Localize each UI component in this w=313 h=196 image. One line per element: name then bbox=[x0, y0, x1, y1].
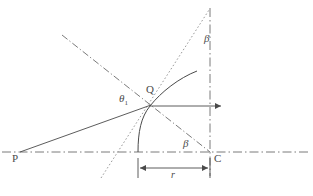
incident-ray-pq bbox=[20, 105, 151, 152]
surface-normal-line bbox=[62, 35, 210, 152]
theta-subscript: 1 bbox=[124, 99, 128, 107]
label-point-p: P bbox=[12, 153, 18, 164]
label-angle-theta1: θ1 bbox=[119, 93, 128, 107]
label-point-c: C bbox=[214, 153, 221, 164]
label-radius-r: r bbox=[171, 170, 175, 180]
tangent-construction-line bbox=[101, 10, 209, 178]
label-angle-beta-lower: β bbox=[183, 138, 188, 149]
geometry-figure: P Q C θ1 β β r bbox=[0, 0, 313, 196]
figure-canvas bbox=[0, 0, 313, 196]
label-angle-beta-upper: β bbox=[204, 33, 209, 44]
label-point-q: Q bbox=[146, 84, 154, 95]
